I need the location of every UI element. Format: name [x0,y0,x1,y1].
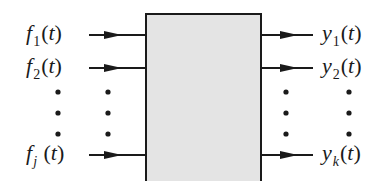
open-paren: ( [44,140,51,165]
output-arrow-2 [262,64,313,72]
close-paren: ) [354,20,361,45]
output-symbol: y [322,53,332,78]
mimo-block-diagram: f1(t) f2(t) fj (t) y1(t) y2(t) yk(t) [0,0,386,181]
close-paren: ) [354,53,361,78]
output-subscript: 2 [333,67,340,82]
close-paren: ) [55,20,62,45]
input-arrow-2 [89,64,145,72]
input-symbol: f [26,20,32,45]
open-paren: ( [341,20,348,45]
output-label-ellipsis-icon [346,89,351,136]
output-arrow-1 [262,31,313,39]
input-subscript: j [33,154,37,169]
input-arrow-1 [89,31,145,39]
output-symbol: y [322,140,332,165]
output-subscript: 1 [333,34,340,49]
output-arrow-k [262,151,313,159]
close-paren: ) [57,140,64,165]
close-paren: ) [353,140,360,165]
output-label-y2: y2(t) [322,55,362,77]
output-label-y1: y1(t) [322,22,362,44]
input-arrow-j [89,151,145,159]
output-arrow-ellipsis-icon [283,89,288,136]
input-symbol: f [26,140,32,165]
output-symbol: y [322,20,332,45]
input-subscript: 1 [33,34,40,49]
output-subscript: k [333,154,339,169]
input-subscript: 2 [33,67,40,82]
output-label-yk: yk(t) [322,142,361,164]
input-label-f1: f1(t) [26,22,62,44]
open-paren: ( [341,53,348,78]
input-label-fj: fj (t) [26,142,64,164]
input-symbol: f [26,53,32,78]
input-arrow-ellipsis-icon [105,89,110,136]
input-label-f2: f2(t) [26,55,62,77]
close-paren: ) [55,53,62,78]
input-label-ellipsis-icon [55,89,60,136]
system-block [145,13,262,181]
